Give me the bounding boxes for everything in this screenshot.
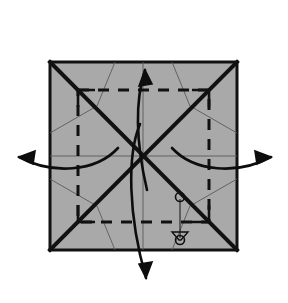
origami-diagram-root: Origami square crease pattern with four … [0,0,288,303]
origami-diagram-canvas: Origami square crease pattern with four … [0,0,288,303]
